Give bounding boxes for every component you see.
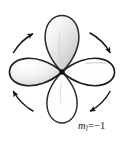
rotation-arrow-bottom-left xyxy=(14,92,34,112)
rotation-arrow-top-right xyxy=(90,33,110,53)
orbital-diagram-figure: ml=−1 xyxy=(0,0,123,142)
quantum-number-value: =−1 xyxy=(88,120,105,131)
nucleus-dot xyxy=(59,69,64,74)
quantum-number-variable: m xyxy=(78,120,86,131)
rotation-arrow-top-left xyxy=(14,34,33,53)
quantum-number-label: ml=−1 xyxy=(78,120,105,133)
rotation-arrow-bottom-right xyxy=(91,92,111,112)
